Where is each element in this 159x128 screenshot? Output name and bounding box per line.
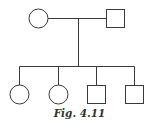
- parent-female-circle: [29, 9, 48, 28]
- child-3-male-square: [88, 86, 106, 104]
- child-4-male-square: [126, 86, 144, 104]
- figure-caption: Fig. 4.11: [0, 107, 159, 119]
- parent-male-square: [107, 10, 125, 28]
- child-2-female-circle: [49, 85, 68, 104]
- child-1-female-circle: [10, 85, 29, 104]
